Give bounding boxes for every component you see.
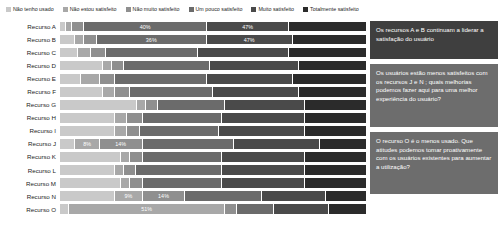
bar-segment[interactable] xyxy=(115,113,127,123)
bar-segment[interactable] xyxy=(305,113,366,123)
bar-segment[interactable] xyxy=(130,152,142,162)
legend-item[interactable]: Muito satisfeito xyxy=(251,6,294,12)
bar-segment[interactable] xyxy=(60,74,81,84)
bar-segment[interactable] xyxy=(299,87,366,97)
bar-segment[interactable] xyxy=(225,204,237,214)
legend-item[interactable]: Totalmente satisfeito xyxy=(303,6,359,12)
bar-segment[interactable] xyxy=(289,22,366,32)
bar-segment[interactable] xyxy=(60,204,69,214)
bar-segment[interactable]: 47% xyxy=(207,35,293,45)
bar-segment[interactable] xyxy=(81,74,99,84)
bar-segment[interactable] xyxy=(210,61,299,71)
bar-segment[interactable] xyxy=(115,87,130,97)
legend-item[interactable]: Não estou satisfeito xyxy=(63,6,117,12)
bar-segment[interactable] xyxy=(289,48,366,58)
bar-segment[interactable] xyxy=(127,113,142,123)
legend-item[interactable]: Não muito satisfeito xyxy=(126,6,180,12)
bar-segment[interactable] xyxy=(143,152,223,162)
stacked-bar[interactable]: 51% xyxy=(60,204,366,214)
bar-segment[interactable] xyxy=(143,113,223,123)
stacked-bar[interactable] xyxy=(60,100,366,110)
bar-segment[interactable] xyxy=(222,113,305,123)
bar-segment[interactable] xyxy=(124,165,136,175)
bar-segment[interactable] xyxy=(60,35,75,45)
bar-segment[interactable]: 8% xyxy=(75,139,99,149)
bar-segment[interactable]: 47% xyxy=(207,22,290,32)
bar-segment[interactable] xyxy=(222,152,305,162)
bar-segment[interactable] xyxy=(106,48,198,58)
bar-segment[interactable] xyxy=(127,126,139,136)
bar-segment[interactable] xyxy=(60,139,75,149)
bar-segment[interactable]: 9% xyxy=(115,191,143,201)
bar-segment[interactable] xyxy=(219,126,305,136)
bar-segment[interactable] xyxy=(60,61,103,71)
bar-segment[interactable] xyxy=(115,74,207,84)
bar-segment[interactable]: 36% xyxy=(97,35,207,45)
bar-segment[interactable] xyxy=(143,178,223,188)
bar-segment[interactable] xyxy=(121,178,130,188)
bar-segment[interactable] xyxy=(146,100,158,110)
bar-segment[interactable] xyxy=(237,204,274,214)
bar-segment[interactable] xyxy=(121,152,130,162)
bar-segment[interactable] xyxy=(60,48,78,58)
bar-segment[interactable] xyxy=(198,48,290,58)
legend-item[interactable]: Não tenho usado xyxy=(6,6,54,12)
bar-segment[interactable] xyxy=(305,100,366,110)
bar-segment[interactable] xyxy=(103,87,115,97)
bar-segment[interactable] xyxy=(60,126,115,136)
bar-segment[interactable] xyxy=(115,126,127,136)
stacked-bar[interactable] xyxy=(60,178,366,188)
bar-segment[interactable] xyxy=(234,139,320,149)
bar-segment[interactable] xyxy=(84,35,96,45)
bar-segment[interactable] xyxy=(60,165,115,175)
stacked-bar[interactable]: 9%14% xyxy=(60,191,366,201)
bar-segment[interactable] xyxy=(305,165,366,175)
bar-segment[interactable] xyxy=(60,100,137,110)
bar-segment[interactable] xyxy=(60,191,115,201)
bar-segment[interactable] xyxy=(124,61,210,71)
bar-segment[interactable]: 14% xyxy=(143,191,186,201)
bar-segment[interactable] xyxy=(262,191,326,201)
bar-segment[interactable] xyxy=(329,204,366,214)
bar-segment[interactable] xyxy=(78,48,90,58)
bar-segment[interactable] xyxy=(60,87,103,97)
stacked-bar[interactable] xyxy=(60,48,366,58)
bar-segment[interactable] xyxy=(326,191,366,201)
bar-segment[interactable] xyxy=(140,126,220,136)
bar-segment[interactable] xyxy=(60,178,121,188)
bar-segment[interactable] xyxy=(222,165,305,175)
bar-segment[interactable] xyxy=(225,100,305,110)
bar-segment[interactable] xyxy=(136,165,222,175)
bar-segment[interactable] xyxy=(293,35,366,45)
stacked-bar[interactable] xyxy=(60,113,366,123)
bar-segment[interactable] xyxy=(130,87,213,97)
bar-segment[interactable] xyxy=(222,178,305,188)
bar-segment[interactable] xyxy=(143,139,235,149)
bar-segment[interactable] xyxy=(274,204,329,214)
bar-segment[interactable] xyxy=(320,139,366,149)
bar-segment[interactable] xyxy=(185,191,262,201)
bar-segment[interactable] xyxy=(305,152,366,162)
bar-segment[interactable] xyxy=(130,178,142,188)
bar-segment[interactable] xyxy=(60,152,121,162)
bar-segment[interactable] xyxy=(299,61,366,71)
stacked-bar[interactable] xyxy=(60,152,366,162)
stacked-bar[interactable]: 40%47% xyxy=(60,22,366,32)
stacked-bar[interactable]: 8%14% xyxy=(60,139,366,149)
bar-segment[interactable] xyxy=(91,48,106,58)
bar-segment[interactable]: 14% xyxy=(100,139,143,149)
stacked-bar[interactable] xyxy=(60,126,366,136)
bar-segment[interactable]: 40% xyxy=(84,22,206,32)
bar-segment[interactable] xyxy=(293,74,366,84)
bar-segment[interactable]: 51% xyxy=(69,204,225,214)
bar-segment[interactable] xyxy=(103,61,112,71)
bar-segment[interactable] xyxy=(137,100,146,110)
stacked-bar[interactable] xyxy=(60,74,366,84)
bar-segment[interactable] xyxy=(305,126,366,136)
bar-segment[interactable] xyxy=(115,165,124,175)
bar-segment[interactable] xyxy=(72,22,84,32)
bar-segment[interactable] xyxy=(60,113,115,123)
stacked-bar[interactable] xyxy=(60,61,366,71)
bar-segment[interactable] xyxy=(213,87,299,97)
stacked-bar[interactable]: 36%47% xyxy=(60,35,366,45)
